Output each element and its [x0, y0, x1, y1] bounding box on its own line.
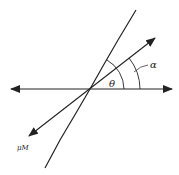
- theta-label: θ: [109, 79, 115, 89]
- moment-label: μM: [17, 145, 29, 152]
- alpha-arc: [129, 58, 140, 89]
- moment-vector: [29, 38, 155, 136]
- alpha-label: α: [150, 60, 157, 70]
- alpha-leader: [134, 65, 148, 72]
- force-angle-diagram: θ α μM: [0, 0, 179, 175]
